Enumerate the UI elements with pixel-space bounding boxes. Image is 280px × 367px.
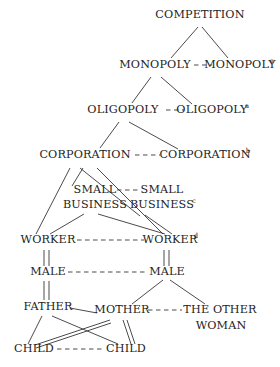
diagram-canvas: COMPETITION MONOPOLY MONOPOLY a OLIGOPOL… <box>0 0 280 367</box>
node-worker-d: WORKER <box>143 233 198 246</box>
edge-male-right-mother <box>132 280 163 304</box>
node-male-left: MALE <box>30 265 66 278</box>
node-small-business-c-line1: SMALL <box>141 183 184 196</box>
edge-small-business-worker <box>50 214 84 234</box>
node-small-business-line1: SMALL <box>74 183 117 196</box>
node-monopoly-a: MONOPOLY <box>204 58 276 71</box>
node-oligopoly-a-superscript: a <box>245 102 249 110</box>
node-father: FATHER <box>24 300 73 313</box>
edge-small-business-worker-d <box>98 214 165 234</box>
node-corporation-b-superscript: b <box>246 147 251 155</box>
node-male-right: MALE <box>149 265 185 278</box>
edge-competition-monopoly <box>171 27 198 58</box>
edge-monopoly-oligopoly <box>132 77 151 103</box>
edge-oligopoly-corporation-b <box>129 122 178 149</box>
node-worker-d-superscript: d <box>194 232 199 240</box>
edge-mother-child-right <box>123 320 131 344</box>
node-oligopoly: OLIGOPOLY <box>87 103 159 116</box>
edge-monopoly-oligopoly-a <box>161 77 192 104</box>
edge-father-child-left <box>28 316 42 344</box>
edges-solid-layer <box>28 27 228 345</box>
hierarchy-diagram: COMPETITION MONOPOLY MONOPOLY a OLIGOPOL… <box>0 0 280 367</box>
node-small-business-line2: BUSINESS <box>63 198 127 211</box>
node-child-right: CHILD <box>106 342 146 355</box>
node-labels-layer: COMPETITION MONOPOLY MONOPOLY a OLIGOPOL… <box>14 8 276 355</box>
node-oligopoly-a: OLIGOPOLY <box>176 103 248 116</box>
node-corporation-b: CORPORATION <box>159 148 250 161</box>
node-other-woman-line2: WOMAN <box>196 319 247 332</box>
node-small-business-c-superscript: c <box>192 197 196 205</box>
node-corporation: CORPORATION <box>39 148 130 161</box>
edge-mother-child-right-parallel <box>127 320 135 344</box>
edge-male-right-other-woman <box>170 280 205 304</box>
node-worker: WORKER <box>21 233 76 246</box>
edge-competition-monopoly-a <box>202 27 228 58</box>
edge-small-business-c-worker-d <box>145 215 172 234</box>
edge-father-mother <box>70 308 97 313</box>
node-monopoly: MONOPOLY <box>119 58 191 71</box>
node-competition: COMPETITION <box>155 8 244 21</box>
node-monopoly-a-superscript: a <box>270 57 274 65</box>
node-mother: MOTHER <box>94 303 150 316</box>
node-other-woman-line1: THE OTHER <box>183 303 257 316</box>
node-child-left: CHILD <box>14 342 54 355</box>
edge-oligopoly-corporation <box>100 122 119 148</box>
node-small-business-c-line2: BUSINESS <box>130 198 194 211</box>
